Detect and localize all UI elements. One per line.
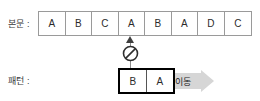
pattern-matching-diagram: 본문 : A B C A B A D C 패턴 : B A 이동 <box>0 0 260 101</box>
text-cell: C <box>225 12 252 35</box>
text-cell: A <box>39 12 66 35</box>
text-cell: B <box>145 12 172 35</box>
pattern-row-label: 패턴 : <box>8 74 30 87</box>
text-cell: C <box>92 12 119 35</box>
text-cell: D <box>198 12 225 35</box>
pattern-cell: A <box>147 70 174 92</box>
pattern-cell: B <box>120 70 147 92</box>
pattern-row-box: B A <box>118 68 175 94</box>
prohibition-sign-icon <box>122 45 139 62</box>
text-row-strip: A B C A B A D C <box>38 11 252 36</box>
move-label: 이동 <box>175 75 191 88</box>
text-cell-mismatch: A <box>119 12 146 35</box>
text-cell: A <box>172 12 199 35</box>
up-arrow-icon <box>126 36 134 43</box>
text-cell: B <box>66 12 93 35</box>
text-row-label: 본문 : <box>8 17 30 30</box>
